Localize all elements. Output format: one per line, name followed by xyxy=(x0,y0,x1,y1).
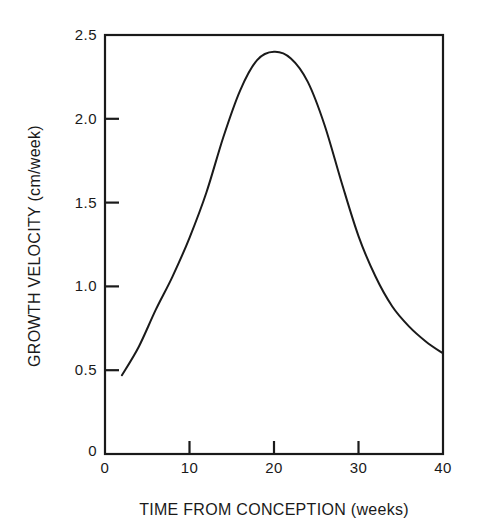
plot-frame xyxy=(105,35,443,454)
data-series xyxy=(122,52,443,375)
x-tick-label: 20 xyxy=(265,459,283,476)
x-tick-label: 10 xyxy=(181,459,199,476)
y-tick-label: 2.0 xyxy=(75,110,97,127)
y-tick-label: 1.5 xyxy=(75,194,97,211)
growth-velocity-line xyxy=(122,52,443,375)
y-axis-ticks: 00.51.01.52.02.5 xyxy=(75,26,119,459)
x-tick-label: 0 xyxy=(101,459,110,476)
growth-velocity-chart: 00.51.01.52.02.5 010203040 TIME FROM CON… xyxy=(0,0,484,527)
x-tick-label: 30 xyxy=(350,459,368,476)
x-axis-title: TIME FROM CONCEPTION (weeks) xyxy=(139,501,409,518)
y-tick-label: 0.5 xyxy=(75,361,97,378)
plot-border xyxy=(105,35,443,454)
y-tick-label: 1.0 xyxy=(75,277,97,294)
y-tick-label: 2.5 xyxy=(75,26,97,43)
x-tick-label: 40 xyxy=(434,459,452,476)
y-tick-label: 0 xyxy=(88,442,97,459)
x-axis-ticks: 010203040 xyxy=(101,441,452,476)
y-axis-title: GROWTH VELOCITY (cm/week) xyxy=(26,125,43,367)
